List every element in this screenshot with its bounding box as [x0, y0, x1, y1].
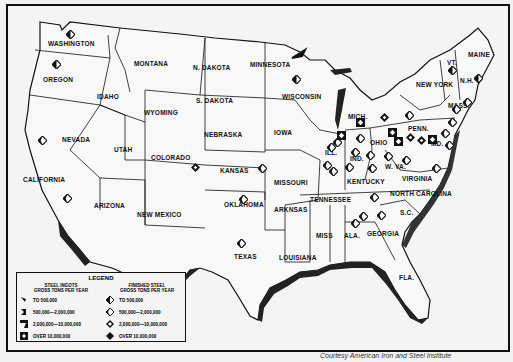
finished-steel-symbol-icon: [258, 164, 267, 173]
finished-steel-symbol-icon: [66, 30, 75, 39]
state-label: VIRGINIA: [402, 175, 433, 182]
legend-ingots-subheading: GROSS TONS PER YEAR: [19, 288, 103, 293]
finished-steel-symbol-icon: [237, 239, 246, 248]
state-label: ARIZONA: [94, 202, 125, 209]
finished-steel-symbol-icon: [448, 66, 457, 75]
state-label: MISSOURI: [274, 179, 308, 186]
legend-ingot-row-1: TO 500,000: [19, 295, 103, 305]
state-label: ALA.: [344, 232, 360, 239]
state-label: N. DAKOTA: [193, 64, 230, 71]
state-label: NORTH CAROLINA: [390, 190, 452, 197]
ingot-small-icon: [19, 296, 29, 304]
ingot-symbol-icon: [337, 131, 346, 140]
ingot-large-icon: [19, 320, 29, 328]
state-label: MAINE: [468, 51, 490, 58]
finished-steel-symbol-icon: [441, 129, 450, 138]
state-label: IDAHO: [97, 93, 119, 100]
legend: LEGEND STEEL INGOTS GROSS TONS PER YEAR …: [16, 272, 186, 342]
finished-steel-symbol-icon: [380, 113, 389, 122]
legend-finished: FINISHED STEEL GROSS TONS PER YEAR TO 50…: [105, 283, 189, 341]
finished-xlarge-icon: [105, 332, 115, 340]
finished-steel-symbol-icon: [359, 212, 368, 221]
finished-steel-symbol-icon: [448, 118, 457, 127]
state-label: OHIO: [370, 139, 387, 146]
state-label: PENN.: [408, 125, 429, 132]
finished-steel-symbol-icon: [239, 195, 248, 204]
finished-steel-symbol-icon: [406, 133, 415, 142]
state-label: OREGON: [43, 76, 73, 83]
state-label: MISS: [316, 232, 333, 239]
state-label: COLORADO: [151, 154, 191, 161]
legend-ingot-row-2: 500,000—2,000,000: [19, 307, 103, 317]
state-label: NEBRASKA: [204, 131, 242, 138]
finished-medium-icon: [105, 308, 115, 316]
finished-steel-symbol-icon: [366, 151, 375, 160]
finished-steel-symbol-icon: [323, 161, 332, 170]
state-label: S. DAKOTA: [196, 97, 233, 104]
finished-steel-symbol-icon: [384, 152, 393, 161]
state-label: MINNESOTA: [250, 61, 290, 68]
ingot-symbol-icon: [428, 135, 437, 144]
credit-text: Courtesy American Iron and Steel Institu…: [320, 352, 451, 359]
state-label: NEW MEXICO: [137, 211, 182, 218]
state-label: CALIFORNIA: [23, 176, 65, 183]
finished-steel-symbol-icon: [345, 163, 354, 172]
finished-steel-symbol-icon: [463, 98, 472, 107]
state-label: IOWA: [274, 129, 292, 136]
finished-steel-symbol-icon: [432, 164, 441, 173]
ingot-xlarge-icon: [19, 332, 29, 340]
legend-finished-row-4: OVER 10,000,000: [105, 331, 189, 341]
legend-ingot-row-3: 2,000,000—10,000,000: [19, 319, 103, 329]
state-label: WISCONSIN: [282, 93, 321, 100]
finished-steel-symbol-icon: [402, 156, 411, 165]
finished-small-icon: [105, 296, 115, 304]
state-label: S.C.: [400, 209, 413, 216]
finished-steel-symbol-icon: [63, 194, 72, 203]
state-label: UTAH: [114, 146, 132, 153]
legend-finished-row-1: TO 500,000: [105, 295, 189, 305]
finished-steel-symbol-icon: [351, 219, 360, 228]
finished-steel-symbol-icon: [452, 105, 461, 114]
legend-title: LEGEND: [17, 275, 185, 281]
finished-steel-symbol-icon: [445, 141, 454, 150]
state-label: ARKNSAS: [274, 206, 308, 213]
legend-finished-subheading: GROSS TONS PER YEAR: [105, 288, 189, 293]
finished-steel-symbol-icon: [191, 163, 200, 172]
ingot-symbol-icon: [388, 128, 397, 137]
state-label: NEW YORK: [416, 81, 453, 88]
finished-large-icon: [105, 320, 115, 328]
state-label: NEVADA: [62, 136, 90, 143]
legend-ingots: STEEL INGOTS GROSS TONS PER YEAR TO 500,…: [19, 283, 103, 341]
finished-steel-symbol-icon: [38, 136, 47, 145]
legend-ingot-row-4: OVER 10,000,000: [19, 331, 103, 341]
finished-steel-symbol-icon: [377, 211, 386, 220]
state-label: WASHINGTON: [48, 40, 95, 47]
state-label: KENTUCKY: [347, 178, 385, 185]
state-label: TEXAS: [234, 253, 257, 260]
ingot-symbol-icon: [356, 118, 365, 127]
ingot-medium-icon: [19, 308, 29, 316]
finished-steel-symbol-icon: [292, 75, 301, 84]
legend-finished-row-2: 500,000—2,000,000: [105, 307, 189, 317]
finished-steel-symbol-icon: [417, 136, 426, 145]
state-label: VT.: [447, 59, 457, 66]
state-label: MONTANA: [134, 60, 168, 67]
finished-steel-symbol-icon: [474, 74, 483, 83]
state-label: FLA.: [399, 274, 414, 281]
finished-steel-symbol-icon: [370, 193, 379, 202]
state-label: GEORGIA: [367, 230, 399, 237]
finished-steel-symbol-icon: [351, 148, 360, 157]
state-label: WYOMING: [144, 109, 178, 116]
finished-steel-symbol-icon: [356, 134, 365, 143]
finished-steel-symbol-icon: [52, 60, 61, 69]
ingot-symbol-icon: [394, 137, 403, 146]
state-label: KANSAS: [220, 167, 249, 174]
state-label: TENNESSEE: [310, 196, 351, 203]
finished-steel-symbol-icon: [405, 111, 414, 120]
finished-steel-symbol-icon: [368, 164, 377, 173]
legend-finished-row-3: 2,000,000—10,000,000: [105, 319, 189, 329]
state-label: N.H.: [460, 77, 474, 84]
state-label: LOUISIANA: [279, 254, 317, 261]
